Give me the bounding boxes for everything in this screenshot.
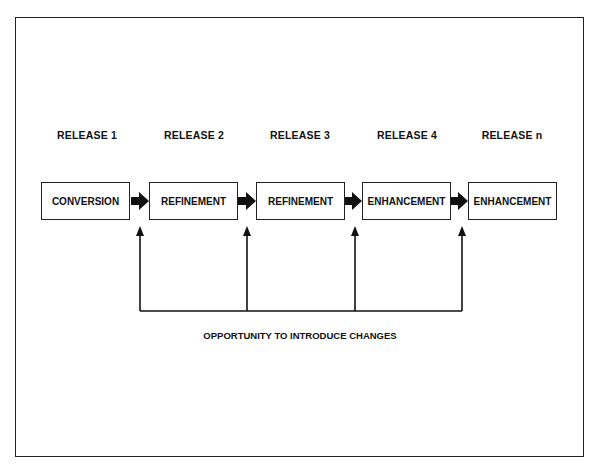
right-arrow-icon <box>238 192 256 210</box>
caption: OPPORTUNITY TO INTRODUCE CHANGES <box>203 330 396 341</box>
flow-arrow-icons <box>131 192 468 210</box>
up-arrow-icon <box>351 226 359 236</box>
right-arrow-icon <box>131 192 149 210</box>
up-arrow-icon <box>243 226 251 236</box>
up-arrow-icon <box>458 226 466 236</box>
up-arrow-icon <box>136 226 144 236</box>
right-arrow-icon <box>451 192 468 210</box>
connector-lines <box>0 0 596 469</box>
right-arrow-icon <box>345 192 362 210</box>
up-arrow-icons <box>136 226 466 236</box>
